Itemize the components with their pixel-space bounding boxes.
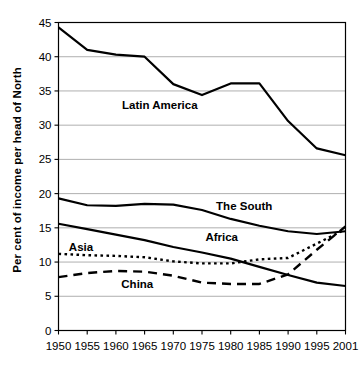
x-tick-labels-group: 1950195519601965197019751980198519901995…: [46, 340, 359, 352]
series-label-the-south: The South: [216, 200, 272, 212]
x-tick-label: 1955: [74, 340, 100, 352]
series-label-africa: Africa: [205, 231, 238, 243]
y-tick-label: 15: [39, 222, 52, 234]
chart-container: Per cent of income per head of North 051…: [0, 0, 362, 368]
series-line-the-south: [59, 198, 346, 234]
x-tick-label: 1995: [304, 340, 330, 352]
y-tick-label: 45: [39, 17, 52, 29]
series-line-asia: [59, 229, 346, 263]
series-label-asia: Asia: [69, 241, 94, 253]
x-tick-label: 1975: [189, 340, 215, 352]
series-label-latin-america: Latin America: [122, 99, 198, 111]
tick-marks-group: [55, 23, 346, 335]
x-tick-label: 1990: [275, 340, 301, 352]
x-tick-label: 1970: [161, 340, 187, 352]
line-chart-svg: 051015202530354045 195019551960196519701…: [0, 0, 362, 368]
series-label-china: China: [121, 278, 154, 290]
series-lines-group: [59, 27, 346, 286]
x-tick-label: 1950: [46, 340, 72, 352]
y-tick-label: 5: [45, 290, 51, 302]
x-tick-label: 1980: [218, 340, 244, 352]
y-tick-label: 10: [39, 256, 52, 268]
x-tick-label: 2001: [333, 340, 359, 352]
y-tick-labels-group: 051015202530354045: [39, 17, 52, 337]
y-tick-label: 25: [39, 153, 52, 165]
y-tick-label: 40: [39, 51, 52, 63]
y-tick-label: 20: [39, 188, 52, 200]
axis-frame-group: [59, 23, 346, 331]
x-tick-label: 1960: [103, 340, 129, 352]
x-tick-label: 1985: [247, 340, 273, 352]
y-tick-label: 0: [45, 325, 51, 337]
y-tick-label: 30: [39, 119, 52, 131]
x-tick-label: 1965: [132, 340, 158, 352]
plot-frame: [59, 23, 346, 331]
y-tick-label: 35: [39, 85, 52, 97]
